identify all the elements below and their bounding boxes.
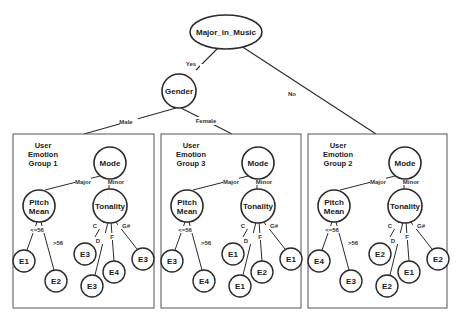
leaf-ton-gs-label: E3 — [138, 255, 148, 264]
pitch-mean-node-label: Pitch — [324, 198, 344, 207]
leaf-pitch-high: E2 — [45, 270, 67, 292]
pitch-mean-node: PitchMean — [23, 190, 55, 222]
tonality-node: Tonality — [93, 189, 127, 223]
edge-label-minor: Minor — [108, 179, 125, 185]
leaf-ton-f: E1 — [398, 261, 420, 283]
decision-tree-diagram: Major_in_Music Yes No Gender Male Female… — [0, 0, 460, 322]
edge-no — [238, 44, 376, 134]
leaf-ton-d: E2 — [376, 275, 398, 297]
pitch-mean-node: PitchMean — [171, 190, 203, 222]
user-emotion-group-box: UserEmotionGroup 1MajorMinor<=56>56CDFG#… — [13, 134, 154, 308]
group-title-line: Group 2 — [324, 159, 353, 168]
leaf-pitch-high-label: E3 — [346, 277, 356, 286]
edge-label-pitch-high: >56 — [53, 240, 64, 246]
leaf-ton-d-label: E1 — [235, 282, 245, 291]
pitch-mean-node-label: Mean — [177, 207, 198, 216]
edge-label-male: Male — [119, 119, 133, 125]
mode-node-label: Mode — [100, 159, 121, 168]
leaf-pitch-high-label: E2 — [51, 277, 61, 286]
gender-node: Gender — [162, 74, 196, 108]
leaf-ton-c-label: E2 — [375, 250, 385, 259]
edge-label-gs: G# — [122, 223, 131, 229]
leaf-pitch-low: E3 — [161, 250, 183, 272]
edge-label-d: D — [96, 238, 101, 244]
edge-label-c: C — [388, 223, 393, 229]
leaf-ton-d: E1 — [229, 275, 251, 297]
mode-node: Mode — [94, 147, 126, 179]
leaf-pitch-low: E4 — [308, 250, 330, 272]
leaf-ton-gs-label: E1 — [286, 255, 296, 264]
leaf-pitch-high: E3 — [340, 270, 362, 292]
group-title-line: Group 1 — [29, 159, 58, 168]
edge-label-major: Major — [370, 179, 387, 185]
user-emotion-group-box: UserEmotionGroup 2MajorMinor<=56>56CDFG#… — [308, 134, 449, 308]
pitch-mean-node: PitchMean — [318, 190, 350, 222]
group-title-line: User — [183, 141, 200, 150]
edge-label-f: F — [110, 234, 114, 240]
tonality-node: Tonality — [388, 189, 422, 223]
leaf-pitch-low-label: E1 — [19, 257, 29, 266]
leaf-ton-f-label: E1 — [404, 268, 414, 277]
mode-node: Mode — [389, 147, 421, 179]
tonality-node: Tonality — [241, 189, 275, 223]
tonality-node-label: Tonality — [390, 202, 421, 211]
group-title-line: User — [35, 141, 52, 150]
root-label: Major_in_Music — [196, 28, 257, 37]
leaf-ton-d: E3 — [81, 275, 103, 297]
pitch-mean-node-label: Mean — [29, 207, 50, 216]
edge-label-minor: Minor — [256, 179, 273, 185]
edge-label-pitch-low: <=56 — [178, 227, 192, 233]
root-node: Major_in_Music — [190, 15, 262, 49]
edge-label-pitch-high: >56 — [201, 240, 212, 246]
leaf-ton-d-label: E2 — [382, 282, 392, 291]
edge-label-f: F — [405, 234, 409, 240]
leaf-ton-gs: E3 — [132, 248, 154, 270]
edge-label-c: C — [93, 223, 98, 229]
edge-label-gs: G# — [417, 223, 426, 229]
yes-label-bg — [200, 64, 222, 72]
leaf-ton-f: E4 — [103, 261, 125, 283]
leaf-ton-c: E3 — [74, 243, 96, 265]
group-title-line: Group 3 — [177, 159, 206, 168]
edge-label-pitch-low: <=56 — [30, 227, 44, 233]
leaf-pitch-low-label: E3 — [167, 257, 177, 266]
tonality-node-label: Tonality — [95, 202, 126, 211]
leaf-ton-gs: E2 — [427, 248, 449, 270]
edge-label-gs: G# — [270, 223, 279, 229]
edge-label-major: Major — [223, 179, 240, 185]
group-title-line: User — [330, 141, 347, 150]
edge-label-female: Female — [196, 118, 217, 124]
gender-label: Gender — [165, 87, 193, 96]
leaf-ton-c-label: E1 — [228, 250, 238, 259]
edge-label-c: C — [241, 223, 246, 229]
leaf-ton-d-label: E3 — [87, 282, 97, 291]
leaf-pitch-low: E1 — [13, 250, 35, 272]
edge-label-f: F — [258, 234, 262, 240]
leaf-ton-f-label: E2 — [257, 268, 267, 277]
mode-node: Mode — [242, 147, 274, 179]
edge-label-yes: Yes — [186, 61, 197, 67]
group-title-line: Emotion — [176, 150, 206, 159]
pitch-mean-node-label: Mean — [324, 207, 345, 216]
edge-label-no: No — [288, 91, 296, 97]
leaf-ton-c: E1 — [222, 243, 244, 265]
leaf-pitch-high: E4 — [193, 270, 215, 292]
pitch-mean-node-label: Pitch — [177, 198, 197, 207]
tonality-node-label: Tonality — [243, 202, 274, 211]
edge-label-d: D — [244, 238, 249, 244]
edge-label-major: Major — [75, 179, 92, 185]
leaf-ton-gs: E1 — [280, 248, 302, 270]
leaf-ton-c: E2 — [369, 243, 391, 265]
edge-label-d: D — [391, 238, 396, 244]
group-title-line: Emotion — [323, 150, 353, 159]
pitch-mean-node-label: Pitch — [29, 198, 49, 207]
mode-node-label: Mode — [248, 159, 269, 168]
leaf-pitch-low-label: E4 — [314, 257, 324, 266]
group-title-line: Emotion — [28, 150, 58, 159]
user-emotion-group-box: UserEmotionGroup 3MajorMinor<=56>56CDFG#… — [161, 134, 302, 308]
edge-label-pitch-low: <=56 — [325, 227, 339, 233]
leaf-ton-gs-label: E2 — [433, 255, 443, 264]
edge-label-minor: Minor — [403, 179, 420, 185]
leaf-ton-f-label: E4 — [109, 268, 119, 277]
leaf-pitch-high-label: E4 — [199, 277, 209, 286]
